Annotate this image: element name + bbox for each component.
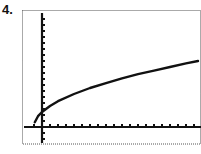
function-curve bbox=[35, 61, 198, 122]
graph-window bbox=[0, 0, 201, 154]
screen-frame bbox=[23, 11, 201, 145]
y-axis-ticks bbox=[42, 19, 45, 139]
